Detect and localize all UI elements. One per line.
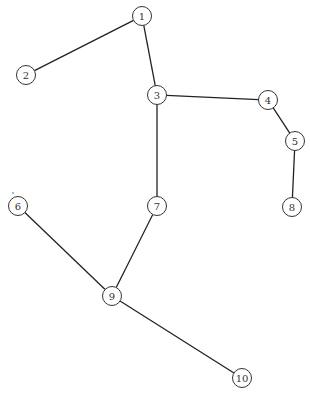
edge-1-3	[144, 25, 155, 85]
edge-7-9	[116, 214, 153, 287]
node-label: 3	[154, 90, 160, 101]
node-5: 5	[286, 132, 305, 151]
node-7: 7	[148, 197, 167, 216]
node-label: 6	[15, 201, 21, 212]
edge-1-2	[34, 20, 133, 70]
edge-3-4	[166, 95, 258, 99]
graph-diagram: 12345678910	[0, 0, 310, 395]
node-label: 4	[265, 95, 271, 106]
edge-6-9	[25, 213, 105, 290]
node-label: 9	[109, 291, 115, 302]
node-8: 8	[283, 198, 302, 217]
node-label: 7	[154, 201, 160, 212]
node-3: 3	[148, 86, 167, 105]
node-4: 4	[259, 91, 278, 110]
node-1: 1	[133, 7, 152, 26]
node-label: 1	[139, 11, 145, 22]
edge-4-5	[273, 108, 290, 133]
node-9: 9	[103, 287, 122, 306]
edge-9-10	[120, 301, 234, 373]
node-label: 2	[23, 70, 29, 81]
stray-mark	[12, 192, 14, 194]
node-2: 2	[17, 66, 36, 85]
edge-5-8	[292, 150, 294, 197]
node-10: 10	[233, 369, 252, 388]
nodes-layer: 12345678910	[9, 7, 305, 388]
node-6: 6	[9, 197, 28, 216]
node-label: 5	[292, 136, 298, 147]
node-label: 10	[236, 373, 249, 384]
node-label: 8	[289, 202, 295, 213]
